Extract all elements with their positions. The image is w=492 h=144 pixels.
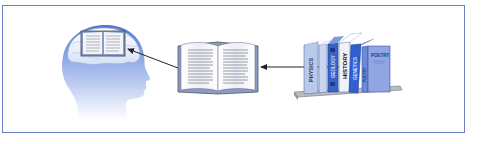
- book-genetics-label: GENETICS: [353, 57, 358, 80]
- head-with-brain-icon: [62, 25, 150, 120]
- open-book-icon: [178, 42, 258, 94]
- brain-book-icon: [81, 31, 125, 56]
- book-poetry-spine-label: POETRY: [363, 67, 367, 82]
- book-history-label: HISTORY: [342, 53, 348, 79]
- book-poetry-cover-label: POETRY: [371, 53, 389, 58]
- bookshelf-icon: PHYSICS GEOLOGY HISTORY GENETICS POETRY …: [294, 33, 402, 100]
- knowledge-flow-diagram: PHYSICS GEOLOGY HISTORY GENETICS POETRY …: [0, 0, 492, 144]
- book-physics-label: PHYSICS: [308, 58, 314, 82]
- book-geology-label: GEOLOGY: [331, 55, 336, 78]
